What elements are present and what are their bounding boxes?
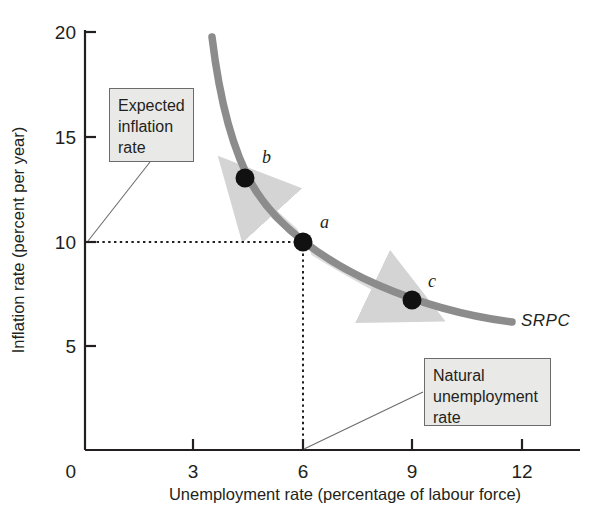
- x-tick-label-6: 6: [298, 461, 309, 482]
- srpc-series-label: SRPC: [521, 311, 570, 330]
- expected-inflation-leader-line: [88, 162, 150, 241]
- y-tick-label-5: 5: [65, 336, 76, 357]
- natural-unemployment-rate-callout-line-2: unemployment: [433, 386, 542, 407]
- x-axis-ticks: [193, 439, 522, 450]
- y-tick-label-20: 20: [55, 22, 76, 43]
- data-point-a: [294, 233, 313, 252]
- data-point-b: [236, 169, 255, 188]
- chart-svg: 20 15 10 5 0 3 6 9 12 Unemployment rate …: [0, 0, 593, 508]
- phillips-curve-figure: 20 15 10 5 0 3 6 9 12 Unemployment rate …: [0, 0, 593, 508]
- y-tick-label-0: 0: [65, 461, 76, 482]
- data-point-c: [403, 291, 422, 310]
- expected-inflation-rate-callout-line-1: Expected: [118, 95, 185, 116]
- y-tick-label-15: 15: [55, 127, 76, 148]
- data-point-label-b: b: [262, 147, 271, 167]
- expected-inflation-rate-callout-line-3: rate: [118, 137, 185, 158]
- natural-unemployment-rate-callout-line-3: rate: [433, 407, 542, 428]
- x-tick-label-12: 12: [511, 461, 532, 482]
- natural-unemployment-rate-callout-line-1: Natural: [433, 365, 542, 386]
- expected-inflation-rate-callout-line-2: inflation: [118, 116, 185, 137]
- y-tick-label-10: 10: [55, 232, 76, 253]
- srpc-curve: [212, 37, 512, 322]
- natural-unemployment-rate-callout: Natural unemployment rate: [424, 358, 551, 426]
- x-tick-label-3: 3: [188, 461, 199, 482]
- x-tick-label-9: 9: [407, 461, 418, 482]
- y-axis-title: Inflation rate (percent per year): [9, 127, 27, 354]
- natural-unemployment-leader-line: [304, 392, 423, 449]
- expected-inflation-rate-callout: Expected inflation rate: [109, 88, 194, 162]
- data-point-label-c: c: [428, 271, 436, 291]
- y-axis-ticks: [85, 32, 96, 346]
- data-point-label-a: a: [320, 212, 329, 232]
- x-axis-title: Unemployment rate (percentage of labour …: [169, 485, 521, 503]
